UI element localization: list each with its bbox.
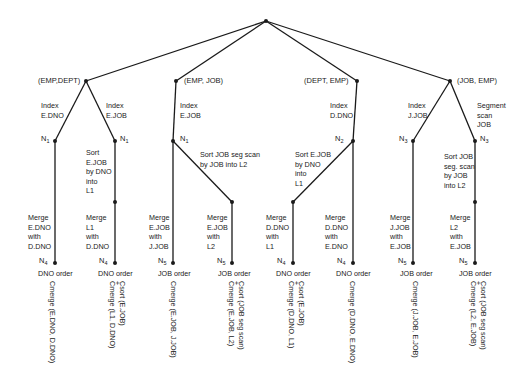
node-dept-emp: (DEPT, EMP) xyxy=(304,76,349,85)
sort-step-label: Sort E.JOB by DNO into L1 xyxy=(295,150,331,188)
leaf-node-label: N5 xyxy=(398,256,406,266)
node-job-emp: (JOB, EMP) xyxy=(457,76,497,85)
n-node-label: N1 xyxy=(120,134,128,144)
order-label: JOB order xyxy=(158,269,191,278)
cost-formula: Cmerge (E.JOB, J.JOB) xyxy=(169,281,178,358)
leaf-node-label: N5 xyxy=(158,256,166,266)
order-label: DNO order xyxy=(38,269,73,278)
merge-label: Merge E.JOB with J.JOB xyxy=(149,213,170,251)
leaf-node-label: N5 xyxy=(459,256,467,266)
cost-formula: Cmerge (E.JOB, L2) xyxy=(227,281,236,346)
cost-formula: Cmerge (E.DNO, D.DNO) xyxy=(48,281,57,363)
order-label: JOB order xyxy=(400,269,433,278)
order-label: DNO order xyxy=(276,269,311,278)
edge-label: Index E.JOB xyxy=(180,101,201,120)
sort-step-label: Sort E.JOB by DNO into L1 xyxy=(86,148,112,196)
sort-step-label: Sort JOB seg. scan by JOB into L2 xyxy=(444,152,475,190)
sort-step-label: Sort JOB seg scan by JOB into L2 xyxy=(200,150,260,169)
leaf-node-label: N5 xyxy=(217,256,225,266)
cost-formula: Cmerge (D.DNO, L1) xyxy=(287,281,296,349)
merge-label: Merge J.JOB with E.JOB xyxy=(390,213,411,251)
leaf-node-label: N4 xyxy=(39,256,47,266)
leaf-node-label: N4 xyxy=(337,256,345,266)
n-node-label: N2 xyxy=(335,134,343,144)
n-node-label: N1 xyxy=(180,134,188,144)
merge-label: Merge D.DNO with E.DNO xyxy=(325,213,348,251)
node-emp-job: (EMP, JOB) xyxy=(184,76,223,85)
cost-formula: Cmerge (L2, E.JOB) xyxy=(469,281,478,346)
merge-label: Merge L1 with D.DNO xyxy=(86,213,109,251)
merge-label: Merge E.JOB with L2 xyxy=(207,213,228,251)
order-label: JOB order xyxy=(459,269,492,278)
edge-label: Index E.JOB xyxy=(106,101,127,120)
cost-formula: Csort (E.JOB) xyxy=(118,281,127,326)
merge-label: Merge E.DNO with D.DNO xyxy=(28,213,51,251)
n-node-label: N3 xyxy=(480,134,488,144)
cost-formula: Csort (JOB seg scan) xyxy=(479,281,488,350)
n-node-label: N1 xyxy=(41,134,49,144)
search-tree-edges xyxy=(0,0,529,384)
edge-label: Segment scan JOB xyxy=(477,101,506,130)
leaf-node-label: N4 xyxy=(99,256,107,266)
cost-formula: Cmerge (L1, D.DNO) xyxy=(108,281,117,349)
cost-formula: Cmerge (D.DNO, E.DNO) xyxy=(348,281,357,363)
node-emp-dept: (EMP,DEPT) xyxy=(38,76,80,85)
order-label: JOB order xyxy=(218,269,251,278)
leaf-node-label: N4 xyxy=(277,256,285,266)
cost-formula: Cmerge (J.JOB, E.JOB) xyxy=(411,281,420,358)
edge-label: Index J.JOB xyxy=(408,101,428,120)
cost-formula: Csort (JOB seg scan) xyxy=(237,281,246,350)
order-label: DNO order xyxy=(98,269,133,278)
edge-label: Index D.DNO xyxy=(330,101,353,120)
cost-formula: Csort (E.JOB) xyxy=(297,281,306,326)
n-node-label: N3 xyxy=(399,134,407,144)
order-label: DNO order xyxy=(336,269,371,278)
merge-label: Merge D.DNO with L1 xyxy=(266,213,289,251)
merge-label: Merge L2 with E.JOB xyxy=(450,213,471,251)
edge-label: Index E.DNO xyxy=(41,101,64,120)
